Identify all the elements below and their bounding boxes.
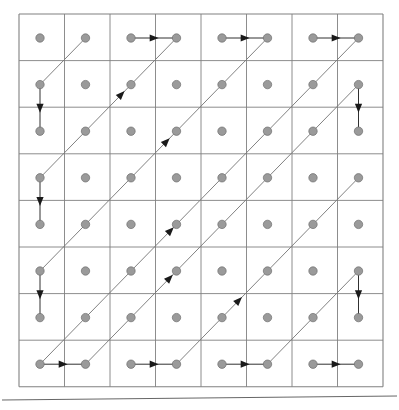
- lattice-node: [172, 80, 180, 88]
- lattice-node: [172, 313, 180, 321]
- lattice-node: [36, 34, 44, 42]
- lattice-node: [172, 127, 180, 135]
- lattice-node: [127, 313, 135, 321]
- lattice-node: [81, 360, 89, 368]
- lattice-node: [354, 360, 362, 368]
- lattice-node: [354, 80, 362, 88]
- lattice-node: [218, 34, 226, 42]
- lattice-node: [127, 34, 135, 42]
- lattice-node: [172, 34, 180, 42]
- lattice-node: [263, 80, 271, 88]
- lattice-node: [354, 174, 362, 182]
- lattice-node: [309, 174, 317, 182]
- lattice-node: [81, 34, 89, 42]
- lattice-node: [309, 220, 317, 228]
- lattice-node: [36, 313, 44, 321]
- lattice-node: [127, 127, 135, 135]
- lattice-node: [218, 174, 226, 182]
- lattice-node: [127, 267, 135, 275]
- lattice-node: [354, 127, 362, 135]
- lattice-node: [309, 127, 317, 135]
- lattice-figure: [0, 0, 399, 410]
- lattice-node: [309, 267, 317, 275]
- lattice-node: [127, 174, 135, 182]
- lattice-node: [263, 360, 271, 368]
- lattice-node: [218, 360, 226, 368]
- lattice-node: [263, 127, 271, 135]
- lattice-node: [36, 174, 44, 182]
- lattice-diagram: [0, 0, 399, 410]
- lattice-node: [218, 267, 226, 275]
- lattice-node: [309, 360, 317, 368]
- lattice-node: [172, 360, 180, 368]
- lattice-node: [36, 360, 44, 368]
- lattice-node: [127, 360, 135, 368]
- lattice-node: [36, 127, 44, 135]
- lattice-node: [218, 127, 226, 135]
- lattice-node: [172, 220, 180, 228]
- lattice-node: [36, 80, 44, 88]
- lattice-node: [263, 267, 271, 275]
- lattice-node: [309, 80, 317, 88]
- lattice-node: [263, 313, 271, 321]
- lattice-node: [354, 313, 362, 321]
- lattice-node: [81, 80, 89, 88]
- lattice-node: [81, 313, 89, 321]
- lattice-node: [263, 34, 271, 42]
- lattice-node: [127, 80, 135, 88]
- lattice-node: [36, 267, 44, 275]
- lattice-node: [354, 267, 362, 275]
- lattice-node: [81, 127, 89, 135]
- lattice-node: [127, 220, 135, 228]
- lattice-node: [263, 220, 271, 228]
- lattice-node: [218, 80, 226, 88]
- lattice-node: [81, 220, 89, 228]
- lattice-node: [218, 313, 226, 321]
- lattice-node: [172, 267, 180, 275]
- lattice-node: [354, 34, 362, 42]
- lattice-node: [218, 220, 226, 228]
- lattice-node: [309, 34, 317, 42]
- lattice-node: [354, 220, 362, 228]
- lattice-node: [81, 174, 89, 182]
- lattice-node: [172, 174, 180, 182]
- lattice-node: [309, 313, 317, 321]
- lattice-node: [263, 174, 271, 182]
- lattice-node: [36, 220, 44, 228]
- figure-background: [0, 0, 399, 410]
- lattice-node: [81, 267, 89, 275]
